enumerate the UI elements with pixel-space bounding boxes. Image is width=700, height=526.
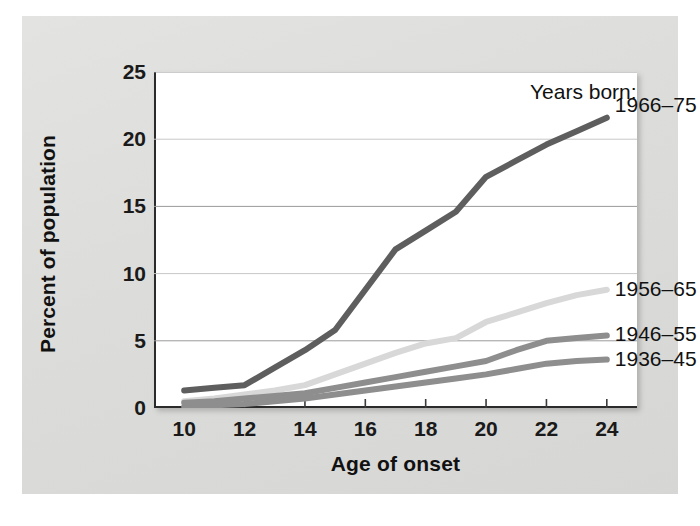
x-axis-title: Age of onset <box>154 452 637 476</box>
series-lines <box>184 118 607 407</box>
series-label-1936-45: 1936–45 <box>615 348 697 370</box>
y-axis-tick-label: 15 <box>100 195 146 216</box>
y-axis-tick-labels: 0510152025 <box>96 0 146 526</box>
x-axis-tick-label: 20 <box>463 418 509 439</box>
y-axis-tick-label: 0 <box>100 397 146 418</box>
y-axis-tick-label: 5 <box>100 330 146 351</box>
plot-canvas <box>154 72 637 408</box>
y-axis-title: Percent of population <box>36 134 60 354</box>
x-axis-tick-label: 18 <box>403 418 449 439</box>
x-axis-tick-label: 10 <box>161 418 207 439</box>
y-axis-tick-label: 20 <box>100 128 146 149</box>
x-axis-tick-label: 16 <box>342 418 388 439</box>
y-axis-tick-label: 25 <box>100 61 146 82</box>
x-axis-tick-label: 22 <box>523 418 569 439</box>
series-label-1956-65: 1956–65 <box>615 278 697 300</box>
series-label-1946-55: 1946–55 <box>615 323 697 345</box>
chart-figure: 0510152025 1012141618202224 Age of onset… <box>0 0 700 526</box>
y-axis-tick-label: 10 <box>100 263 146 284</box>
x-axis-tick-label: 24 <box>584 418 630 439</box>
x-axis-tick-label: 12 <box>222 418 268 439</box>
series-label-1966-75: 1966–75 <box>615 94 697 116</box>
x-axis-tick-label: 14 <box>282 418 328 439</box>
series-line-1966-75 <box>184 118 607 391</box>
